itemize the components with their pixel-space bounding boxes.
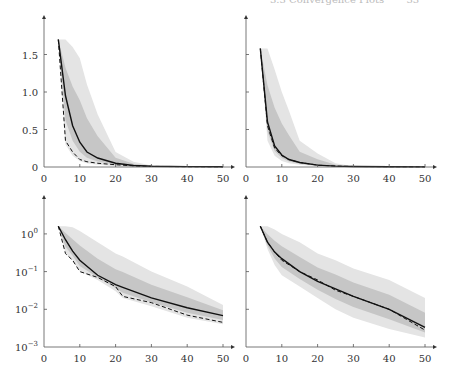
chart-top-right: 01020304050 [243,15,437,184]
x-axis-arrow-icon [231,165,235,169]
chart-bottom-right: 01020304050 [243,195,437,364]
y-tick-label: 0.5 [22,125,38,136]
x-tick-label: 20 [109,353,122,364]
x-tick-label: 0 [41,353,47,364]
y-tick-label: 100 [21,227,38,240]
y-tick-label: 1.5 [22,50,38,61]
x-tick-label: 30 [347,353,360,364]
x-tick-label: 40 [181,353,194,364]
y-tick-label: 10−2 [15,302,38,315]
chart-top-left: 0102030405000.51.01.5 [22,15,235,184]
y-tick-label: 1.0 [22,87,38,98]
x-tick-label: 20 [311,353,324,364]
x-tick-label: 50 [419,353,432,364]
x-tick-label: 10 [275,353,288,364]
x-tick-label: 10 [73,173,86,184]
x-axis-arrow-icon [433,345,437,349]
x-tick-label: 10 [73,353,86,364]
x-tick-label: 20 [311,173,324,184]
y-axis-arrow-icon [42,15,46,19]
y-axis-arrow-icon [244,195,248,199]
convergence-plots: 0102030405000.51.01.50102030405001020304… [0,0,449,376]
x-tick-label: 50 [217,173,230,184]
x-tick-label: 10 [275,173,288,184]
x-tick-label: 30 [145,353,158,364]
x-tick-label: 0 [243,353,249,364]
x-tick-label: 30 [145,173,158,184]
x-tick-label: 30 [347,173,360,184]
y-axis-arrow-icon [244,15,248,19]
y-axis-arrow-icon [42,195,46,199]
x-tick-label: 0 [41,173,47,184]
y-tick-label: 10−1 [15,265,38,278]
x-axis-arrow-icon [231,345,235,349]
x-axis-arrow-icon [433,165,437,169]
x-tick-label: 50 [217,353,230,364]
chart-bottom-left: 0102030405010−310−210−1100 [15,195,235,364]
y-tick-label: 10−3 [15,340,38,353]
x-tick-label: 40 [383,353,396,364]
x-tick-label: 20 [109,173,122,184]
y-tick-label: 0 [32,162,38,173]
x-tick-label: 40 [383,173,396,184]
x-tick-label: 50 [419,173,432,184]
x-tick-label: 0 [243,173,249,184]
x-tick-label: 40 [181,173,194,184]
